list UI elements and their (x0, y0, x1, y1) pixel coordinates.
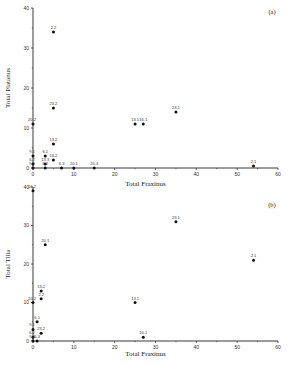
scatter-panel-b: 0102030405060010203040Total FraxinusTota… (4, 184, 281, 358)
data-point (142, 123, 145, 126)
x-axis-title: Total Fraxinus (125, 180, 166, 188)
x-tick-label: 40 (194, 171, 200, 177)
data-point-label: 16.2 (50, 153, 59, 158)
data-point-label: 20.2 (28, 117, 37, 122)
data-point (134, 123, 137, 126)
data-point (44, 243, 47, 246)
data-point-label: 9.2 (29, 334, 35, 339)
data-point (36, 320, 39, 323)
y-tick-label: 30 (23, 45, 29, 51)
y-tick-label: 20 (23, 85, 29, 91)
data-point (174, 220, 177, 223)
data-point-label: 16.1 (139, 330, 148, 335)
data-point-label: 20.3 (90, 161, 99, 166)
x-tick-label: 10 (71, 344, 77, 350)
data-point-label: 13.2 (37, 284, 46, 289)
data-point-label: 6.3 (59, 161, 65, 166)
data-point-label: 6.2 (42, 161, 48, 166)
data-point (174, 111, 177, 114)
data-point-label: 2.1 (251, 159, 257, 164)
x-tick-label: 50 (234, 344, 240, 350)
data-point (40, 332, 43, 335)
x-tick-label: 60 (275, 171, 281, 177)
data-point-label: 6.1 (34, 315, 40, 320)
y-tick-label: 20 (23, 261, 29, 267)
x-tick-label: 10 (71, 171, 77, 177)
scatter-figure: 0102030405060010203040Total FraxinusTota… (0, 0, 296, 365)
x-tick-label: 20 (112, 344, 118, 350)
data-point-label: 23.2 (37, 326, 46, 331)
x-tick-label: 0 (32, 344, 35, 350)
data-point-label: 23.1 (172, 105, 181, 110)
x-tick-label: 0 (32, 171, 35, 177)
x-tick-label: 60 (275, 344, 281, 350)
data-point-label: 23.2 (50, 101, 59, 106)
data-point-label: 6.3 (34, 334, 40, 339)
data-point-label: 16.2 (28, 184, 37, 189)
data-point (32, 167, 35, 170)
data-point (52, 159, 55, 162)
data-point (134, 301, 137, 304)
data-point-label: 20.1 (41, 238, 50, 243)
data-point-label: 9.1 (29, 149, 35, 154)
data-point-label: 6.1 (42, 149, 48, 154)
y-axis-title: Total Tilia (4, 249, 12, 279)
y-tick-label: 40 (23, 5, 29, 11)
data-point (252, 259, 255, 262)
x-tick-label: 30 (153, 171, 159, 177)
data-point-label: 2.2 (38, 292, 44, 297)
data-point-label: 13.2 (50, 137, 59, 142)
scatter-panel-a: 0102030405060010203040Total FraxinusTota… (4, 5, 281, 188)
data-point-label: 2.2 (51, 25, 57, 30)
data-point-label: 9.2 (29, 161, 35, 166)
data-point (72, 167, 75, 170)
data-point (36, 340, 39, 343)
data-point (52, 31, 55, 34)
data-point-label: 20.1 (70, 161, 79, 166)
data-point (32, 340, 35, 343)
data-point (32, 189, 35, 192)
data-point (40, 297, 43, 300)
data-point (60, 167, 63, 170)
y-tick-label: 30 (23, 222, 29, 228)
data-point-label: 23.1 (172, 215, 181, 220)
data-point-label: 13.1 (131, 296, 140, 301)
data-point (252, 165, 255, 168)
data-point-label: 20.2 (28, 296, 37, 301)
data-point (32, 301, 35, 304)
x-tick-label: 20 (112, 171, 118, 177)
data-point (93, 167, 96, 170)
data-point (52, 107, 55, 110)
x-tick-label: 50 (234, 171, 240, 177)
data-point (44, 167, 47, 170)
data-point-label: 9.1 (29, 322, 35, 327)
data-point (32, 123, 35, 126)
y-tick-label: 10 (23, 125, 29, 131)
panel-label: (b) (268, 201, 276, 209)
y-axis-title: Total Platanus (4, 68, 12, 108)
data-point-label: 16.1 (139, 117, 148, 122)
data-point (52, 143, 55, 146)
x-axis-title: Total Fraxinus (125, 350, 166, 358)
data-point-label: 2.1 (251, 253, 257, 258)
panel-label: (a) (268, 8, 275, 16)
x-tick-label: 40 (194, 344, 200, 350)
data-point (142, 336, 145, 339)
